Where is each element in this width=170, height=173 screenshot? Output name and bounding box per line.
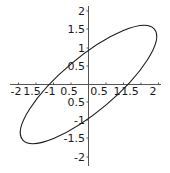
y-tick-label: -1	[74, 115, 85, 126]
x-tick-label: -2	[11, 86, 22, 97]
x-tick-label: 1	[114, 86, 121, 97]
y-tick-label: 2	[78, 6, 85, 17]
x-tick-label: 0.5	[90, 86, 108, 97]
x-tick-label: 1.5	[121, 86, 139, 97]
x-tick-label: 1.5	[23, 86, 41, 97]
y-tick-label: -2	[74, 152, 85, 163]
y-tick-label: 0.5	[68, 61, 86, 72]
y-tick-label: 1	[78, 43, 85, 54]
parametric-plot-ellipse: -2 1.5 -1 0.5 0.5 1 1.5 2 2 1.5 1 0.5 0.…	[0, 0, 170, 173]
y-tick-label: -1.5	[64, 133, 85, 144]
x-tick-label: -1	[45, 86, 56, 97]
x-tick-label: 2	[150, 86, 157, 97]
y-tick-label: 1.5	[68, 24, 86, 35]
y-tick-label: 0.5	[68, 97, 86, 108]
